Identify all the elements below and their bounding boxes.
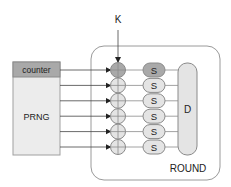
sbox-label: S	[151, 65, 157, 76]
prng-label: PRNG	[23, 112, 49, 122]
sbox-label: S	[151, 126, 157, 137]
counter-label: counter	[22, 65, 51, 75]
sbox-label: S	[151, 111, 157, 122]
key-label: K	[115, 14, 122, 25]
sbox-label: S	[151, 142, 157, 153]
round-diagram: ROUND counter PRNG K D SSSSSS	[0, 0, 231, 187]
round-label: ROUND	[170, 163, 207, 174]
diffusion-label: D	[184, 104, 191, 115]
sbox-label: S	[151, 80, 157, 91]
sbox-label: S	[151, 95, 157, 106]
